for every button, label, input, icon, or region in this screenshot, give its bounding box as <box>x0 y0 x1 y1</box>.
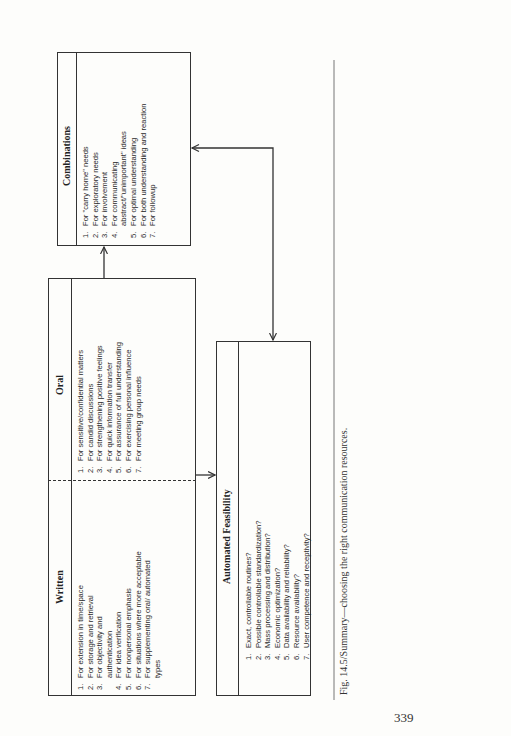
figure-caption: Fig. 14.5/Summary—choosing the right com… <box>338 428 349 695</box>
oral-item: 4.For quick information transfer <box>105 283 115 473</box>
automated-item: 5.Data availability and reliability? <box>282 360 292 660</box>
automated-item: 4.Economic optimization? <box>273 360 283 660</box>
oral-item: 7.For meeting group needs <box>134 283 144 473</box>
written-title: Written <box>54 570 65 604</box>
written-oral-dashed-divider <box>48 480 196 481</box>
combinations-title: Combinations <box>61 126 72 186</box>
automated-item: 7.User competence and receptivity? <box>302 360 312 660</box>
automated-item: 1.Exact, controllable routines? <box>244 360 254 660</box>
combinations-item: 7.For followup <box>148 53 158 238</box>
combinations-automated-bidirectional-arrow <box>192 148 273 340</box>
written-item: 2.For storage and retrieval <box>86 490 96 690</box>
automated-item: 3.Mass processing and distribution? <box>263 360 273 660</box>
combinations-item: 3.For involvement <box>100 53 110 238</box>
combinations-item: 5.For optimal understanding <box>129 53 139 238</box>
oral-item: 3.For strengthening positive feelings <box>95 283 105 473</box>
written-item: 4.For idea verification <box>114 490 124 690</box>
oral-item: 1.For sensitive/confidential matters <box>76 283 86 473</box>
combinations-item: 6.For both understanding and reaction <box>139 53 149 238</box>
oral-title: Oral <box>54 375 65 395</box>
oral-item: 5.For assurance of full understanding <box>114 283 124 473</box>
written-item: 5.For nonpersonal emphasis <box>124 490 134 690</box>
oral-list: 1.For sensitive/confidential matters 2.F… <box>76 283 143 473</box>
oral-item: 2.For candid discussions <box>86 283 96 473</box>
automated-title: Automated Feasibility <box>221 489 232 584</box>
oral-item: 6.For exercising personal influence <box>124 283 134 473</box>
written-oral-header-divider <box>71 278 72 696</box>
combinations-header-divider <box>76 52 77 246</box>
combinations-item: 4.For communicating abstract/"unimportan… <box>110 53 129 238</box>
written-list: 1.For extension in time/space 2.For stor… <box>76 490 162 690</box>
combinations-item: 1.For "carry home" needs <box>81 53 91 238</box>
automated-list: 1.Exact, controllable routines? 2.Possib… <box>244 360 311 660</box>
automated-header-divider <box>238 341 239 696</box>
written-item: 1.For extension in time/space <box>76 490 86 690</box>
combinations-item: 2.For exploratory needs <box>91 53 101 238</box>
combinations-list: 1.For "carry home" needs 2.For explorato… <box>81 53 158 238</box>
automated-item: 6.Resource availability? <box>292 360 302 660</box>
written-item: 7.For supplementing oral/ automated type… <box>143 490 162 690</box>
page-number: 339 <box>394 710 414 726</box>
automated-item: 2.Possible controllable standardization? <box>254 360 264 660</box>
written-item: 6.For situations where more acceptable <box>134 490 144 690</box>
written-item: 3.For objectivity and authentication <box>95 490 114 690</box>
